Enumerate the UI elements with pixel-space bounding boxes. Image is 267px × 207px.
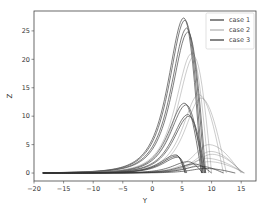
curve-case-1 xyxy=(43,115,205,174)
x-tick-label: 0 xyxy=(150,185,154,193)
y-tick-label: 5 xyxy=(26,141,30,149)
y-tick-label: 0 xyxy=(26,169,30,177)
x-tick-label: −15 xyxy=(57,185,71,193)
y-axis: 0510152025 xyxy=(22,27,34,177)
x-axis-label: Y xyxy=(142,197,148,205)
curve-case-1 xyxy=(43,32,206,173)
x-tick-label: 10 xyxy=(207,185,215,193)
x-tick-label: 15 xyxy=(237,185,245,193)
curve-case-1 xyxy=(43,20,203,173)
y-tick-label: 10 xyxy=(22,112,30,120)
legend-label: case 2 xyxy=(229,26,250,34)
y-tick-label: 25 xyxy=(22,27,30,35)
curve-case-1 xyxy=(43,103,202,173)
y-axis-label: Z xyxy=(6,93,14,98)
legend: case 1case 2case 3 xyxy=(206,13,254,49)
x-tick-label: −20 xyxy=(27,185,41,193)
x-tick-label: −5 xyxy=(118,185,128,193)
x-tick-label: 5 xyxy=(180,185,184,193)
y-tick-label: 15 xyxy=(22,84,30,92)
curve-case-2 xyxy=(43,54,209,173)
legend-label: case 1 xyxy=(229,16,250,24)
y-tick-label: 20 xyxy=(22,56,30,64)
x-axis: −20−15−10−5051015 xyxy=(27,181,245,193)
chart-canvas: −20−15−10−5051015 0510152025 Y Z case 1c… xyxy=(0,0,267,207)
legend-label: case 3 xyxy=(229,36,250,44)
curve-case-1 xyxy=(43,116,206,173)
curve-case-1 xyxy=(43,105,203,173)
x-tick-label: −10 xyxy=(86,185,100,193)
